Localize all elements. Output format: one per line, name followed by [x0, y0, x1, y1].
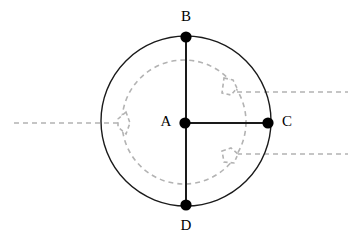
point-D	[180, 199, 191, 210]
point-A	[179, 117, 190, 128]
label-C: C	[282, 113, 292, 129]
point-B	[180, 31, 191, 42]
figure-canvas: ABCD	[0, 0, 357, 245]
geometry-figure: ABCD	[0, 0, 357, 245]
point-C	[262, 117, 273, 128]
label-D: D	[181, 217, 192, 233]
label-B: B	[181, 8, 191, 24]
label-A: A	[161, 113, 172, 129]
